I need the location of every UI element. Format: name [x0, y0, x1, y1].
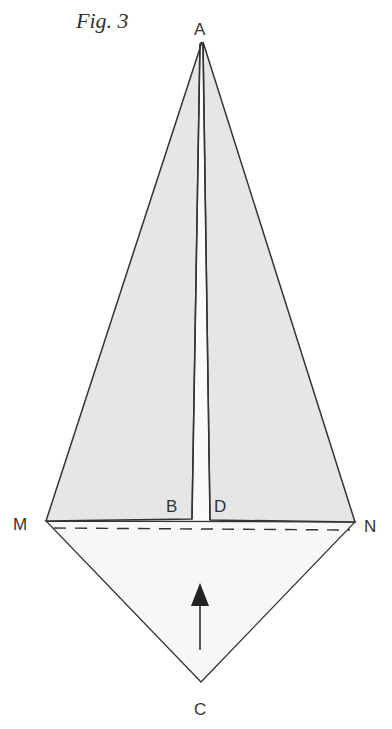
label-B: B [166, 498, 177, 515]
left-flap [46, 42, 202, 521]
label-M: M [13, 516, 27, 533]
label-D: D [214, 498, 226, 515]
right-flap [203, 42, 355, 522]
kite-fold-diagram [0, 0, 392, 729]
label-A: A [194, 21, 205, 38]
label-N: N [364, 518, 376, 535]
label-C: C [194, 701, 206, 718]
